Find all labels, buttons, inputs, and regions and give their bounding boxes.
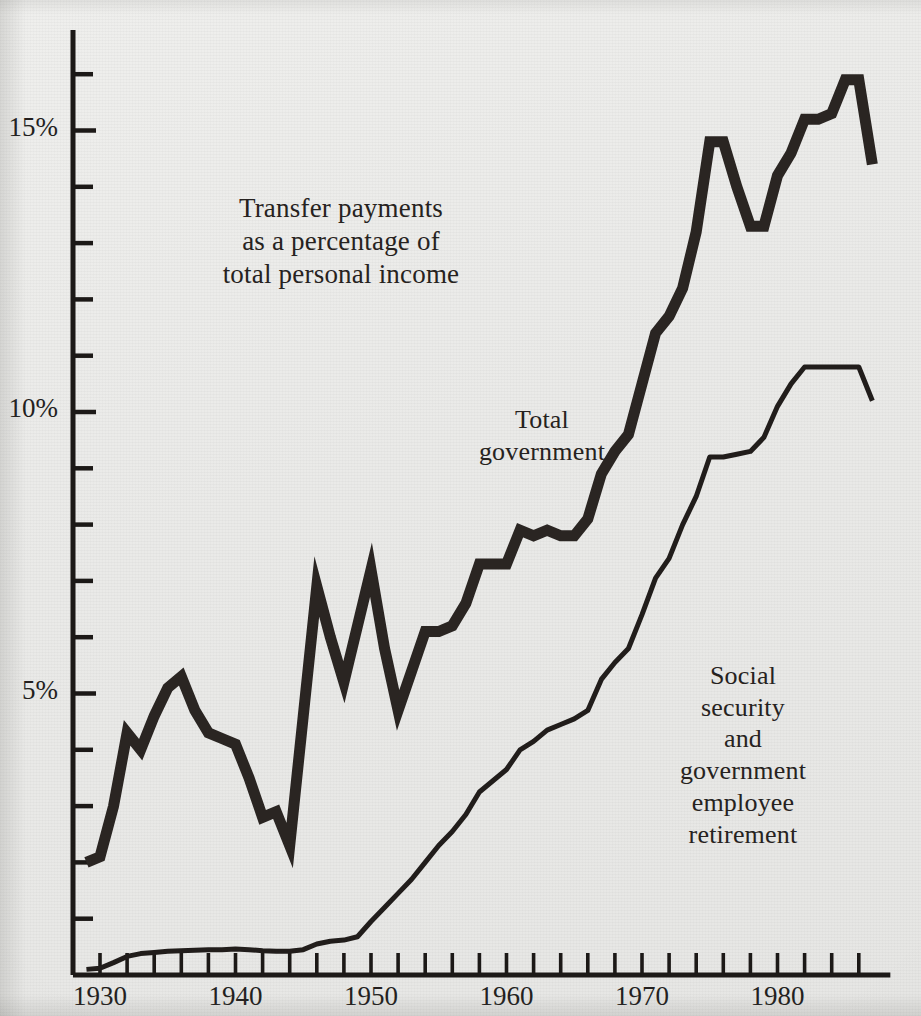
transfer-payments-line-chart: [0, 0, 921, 1016]
chart-page: 15%10%5% 193019401950196019701980 Transf…: [0, 0, 921, 1016]
y-tick-label-5: 5%: [22, 675, 58, 706]
x-tick-label-1960: 1960: [462, 981, 552, 1012]
x-axis-tick-labels: 193019401950196019701980: [0, 981, 921, 1016]
x-tick-label-1980: 1980: [733, 981, 823, 1012]
x-tick-label-1930: 1930: [55, 981, 145, 1012]
y-tick-label-10: 10%: [9, 393, 59, 424]
series-label-social-security: Social security and government employee …: [638, 660, 848, 850]
y-axis-tick-labels: 15%10%5%: [0, 0, 58, 1016]
x-tick-label-1950: 1950: [326, 981, 416, 1012]
chart-caption-annotation: Transfer payments as a percentage of tot…: [186, 192, 496, 291]
x-tick-label-1940: 1940: [191, 981, 281, 1012]
y-tick-label-15: 15%: [9, 112, 59, 143]
series-label-total-government: Total government: [452, 404, 632, 467]
x-tick-label-1970: 1970: [597, 981, 687, 1012]
